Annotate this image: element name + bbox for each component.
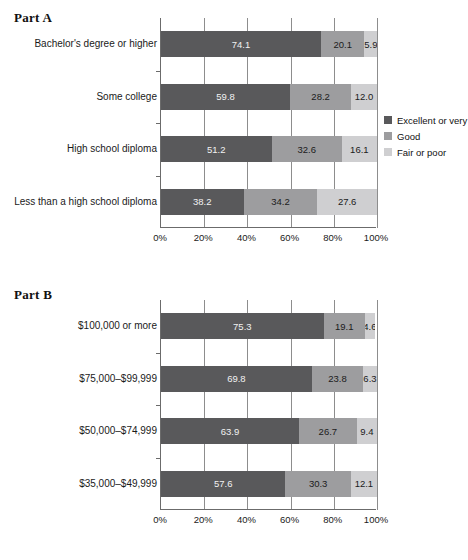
bar-segment: 59.8	[161, 84, 290, 110]
plot-area-part-b: $100,000 or more75.319.14.6$75,000–$99,9…	[160, 300, 376, 510]
bar-row: $75,000–$99,99969.823.86.3	[161, 366, 376, 392]
bar-segment: 26.7	[299, 418, 357, 444]
bar-rows-part-a: Bachelor's degree or higher74.120.15.9So…	[161, 18, 376, 228]
bar-segment: 16.1	[342, 136, 377, 162]
legend-swatch-icon	[384, 116, 392, 124]
legend-swatch-icon	[384, 132, 392, 140]
x-tick-label: 0%	[153, 514, 167, 525]
x-tick-label: 60%	[280, 514, 299, 525]
x-tick-label: 80%	[323, 514, 342, 525]
bar-segment: 32.6	[272, 136, 342, 162]
x-tick-label: 20%	[194, 232, 213, 243]
x-tick-label: 100%	[364, 514, 388, 525]
legend-item: Excellent or very good	[384, 113, 468, 127]
legend-part-a: Excellent or very goodGoodFair or poor	[384, 113, 468, 161]
x-tick-label: 40%	[237, 232, 256, 243]
bar-row: $100,000 or more75.319.14.6	[161, 313, 376, 339]
legend-label: Excellent or very good	[397, 115, 468, 126]
axis-tickmark	[156, 353, 161, 354]
category-label: $75,000–$99,999	[3, 366, 157, 392]
bar-row: Less than a high school diploma38.234.22…	[161, 189, 376, 215]
x-axis-line-part-a	[161, 227, 376, 228]
category-label: High school diploma	[3, 136, 157, 162]
panel-title-part-a: Part A	[14, 10, 52, 26]
category-label: Bachelor's degree or higher	[3, 31, 157, 57]
bar-rows-part-b: $100,000 or more75.319.14.6$75,000–$99,9…	[161, 300, 376, 510]
panel-title-part-b: Part B	[14, 287, 52, 303]
bar-segment: 28.2	[290, 84, 351, 110]
bar-segment: 5.9	[364, 31, 377, 57]
bar-row: Some college59.828.212.0	[161, 84, 376, 110]
bar-segment: 74.1	[161, 31, 321, 57]
axis-tickmark	[156, 458, 161, 459]
plot-area-part-a: Bachelor's degree or higher74.120.15.9So…	[160, 18, 376, 228]
stacked-bar: 75.319.14.6	[161, 313, 375, 339]
stacked-bar: 57.630.312.1	[161, 471, 377, 497]
axis-tickmark	[156, 71, 161, 72]
bar-row: High school diploma51.232.616.1	[161, 136, 376, 162]
legend-swatch-icon	[384, 148, 392, 156]
x-tick-label: 80%	[323, 232, 342, 243]
stacked-bar: 59.828.212.0	[161, 84, 377, 110]
stacked-bar: 38.234.227.6	[161, 189, 377, 215]
category-label: $50,000–$74,999	[3, 418, 157, 444]
axis-tickmark	[156, 123, 161, 124]
category-label: Some college	[3, 84, 157, 110]
x-tick-label: 20%	[194, 514, 213, 525]
chart-panel-part-a: Part A Bachelor's degree or higher74.120…	[0, 0, 468, 270]
x-tick-label: 40%	[237, 514, 256, 525]
bar-segment: 19.1	[324, 313, 365, 339]
bar-segment: 12.0	[351, 84, 377, 110]
bar-segment: 34.2	[244, 189, 318, 215]
bar-segment: 9.4	[357, 418, 377, 444]
stacked-bar: 51.232.616.1	[161, 136, 377, 162]
bar-segment: 63.9	[161, 418, 299, 444]
axis-tickmark	[156, 176, 161, 177]
stacked-bar: 74.120.15.9	[161, 31, 377, 57]
axis-tickmark	[156, 405, 161, 406]
x-tick-label: 0%	[153, 232, 167, 243]
legend-label: Good	[397, 131, 420, 142]
bar-segment: 75.3	[161, 313, 324, 339]
legend-item: Fair or poor	[384, 145, 468, 159]
bar-segment: 23.8	[312, 366, 363, 392]
chart-panel-part-b: Part B $100,000 or more75.319.14.6$75,00…	[0, 282, 468, 560]
x-tick-label: 60%	[280, 232, 299, 243]
x-tick-label: 100%	[364, 232, 388, 243]
bar-segment: 69.8	[161, 366, 312, 392]
legend-item: Good	[384, 129, 468, 143]
stacked-bar: 69.823.86.3	[161, 366, 377, 392]
bar-row: Bachelor's degree or higher74.120.15.9	[161, 31, 376, 57]
x-axis-line-part-b	[161, 509, 376, 510]
bar-segment: 4.6	[365, 313, 375, 339]
bar-segment: 57.6	[161, 471, 285, 497]
bar-segment: 51.2	[161, 136, 272, 162]
bar-row: $50,000–$74,99963.926.79.4	[161, 418, 376, 444]
category-label: $100,000 or more	[3, 313, 157, 339]
bar-segment: 12.1	[351, 471, 377, 497]
bar-segment: 38.2	[161, 189, 244, 215]
bar-segment: 30.3	[285, 471, 350, 497]
bar-segment: 27.6	[317, 189, 377, 215]
category-label: $35,000–$49,999	[3, 471, 157, 497]
stacked-bar: 63.926.79.4	[161, 418, 377, 444]
bar-segment: 20.1	[321, 31, 364, 57]
gridline	[377, 300, 378, 510]
legend-label: Fair or poor	[397, 147, 446, 158]
category-label: Less than a high school diploma	[3, 189, 157, 215]
bar-row: $35,000–$49,99957.630.312.1	[161, 471, 376, 497]
bar-segment: 6.3	[363, 366, 377, 392]
